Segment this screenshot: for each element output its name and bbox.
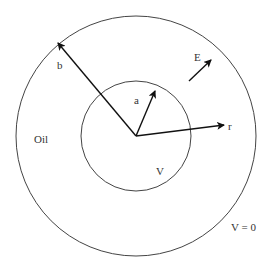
label-e: E (194, 51, 201, 63)
spherical-capacitor-diagram: b a r E Oil V V = 0 (0, 0, 270, 272)
radius-r-arrow (136, 125, 224, 136)
label-oil: Oil (34, 133, 48, 145)
label-b: b (57, 59, 63, 71)
label-r: r (228, 120, 232, 132)
label-outer-potential: V = 0 (231, 221, 256, 233)
radius-b-arrow (58, 43, 136, 136)
label-a: a (134, 94, 139, 106)
label-inner-potential: V (156, 165, 164, 177)
electric-field-arrow (189, 60, 211, 81)
